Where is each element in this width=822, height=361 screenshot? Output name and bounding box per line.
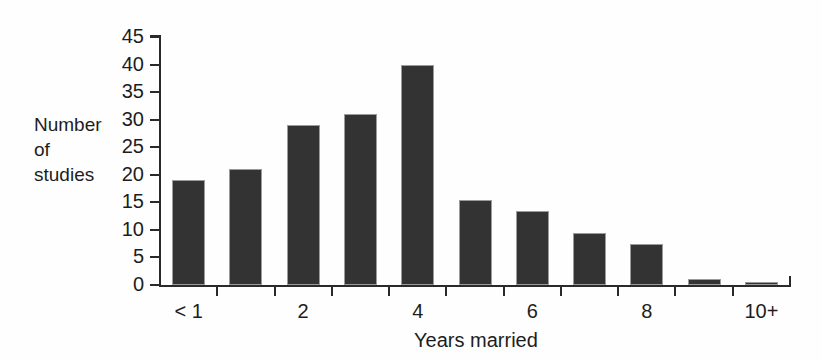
- bar: [516, 211, 549, 285]
- x-tick-label: 2: [263, 300, 343, 322]
- bar: [459, 200, 492, 285]
- x-tick: [617, 287, 619, 296]
- y-tick: [150, 36, 159, 38]
- y-tick-label: 40: [102, 54, 144, 74]
- bar: [229, 169, 262, 285]
- y-tick: [150, 91, 159, 93]
- x-tick: [732, 287, 734, 296]
- x-tick-label: 8: [607, 300, 687, 322]
- x-tick: [503, 287, 505, 296]
- x-tick: [216, 287, 218, 296]
- bar: [745, 282, 778, 285]
- y-tick: [150, 229, 159, 231]
- y-tick: [150, 174, 159, 176]
- y-tick: [150, 256, 159, 258]
- y-tick-label: 15: [102, 191, 144, 211]
- y-tick-label: 5: [102, 246, 144, 266]
- x-tick: [445, 287, 447, 296]
- y-tick: [150, 201, 159, 203]
- x-tick-label: 10+: [721, 300, 801, 322]
- y-tick-label: 25: [102, 136, 144, 156]
- x-axis-end-tick: [789, 276, 791, 287]
- y-tick-label: 0: [102, 274, 144, 294]
- bar-chart-figure: Number of studies 051015202530354045 < 1…: [0, 0, 822, 361]
- x-tick: [560, 287, 562, 296]
- y-tick: [150, 284, 159, 286]
- x-axis-title: Years married: [261, 329, 691, 351]
- y-tick-label: 45: [102, 26, 144, 46]
- bar: [344, 114, 377, 285]
- y-tick-label: 35: [102, 81, 144, 101]
- bar: [630, 244, 663, 285]
- y-tick-label: 10: [102, 219, 144, 239]
- y-tick-label: 30: [102, 109, 144, 129]
- y-axis-line: [159, 35, 161, 287]
- x-tick: [274, 287, 276, 296]
- y-tick: [150, 146, 159, 148]
- y-tick: [150, 64, 159, 66]
- x-tick-label: 4: [378, 300, 458, 322]
- x-tick: [674, 287, 676, 296]
- y-tick-label: 20: [102, 164, 144, 184]
- y-tick: [150, 119, 159, 121]
- x-tick: [388, 287, 390, 296]
- bar: [287, 125, 320, 285]
- bar: [688, 279, 721, 285]
- x-axis-line: [159, 285, 791, 287]
- x-tick-label: 6: [492, 300, 572, 322]
- x-tick-label: < 1: [149, 300, 229, 322]
- x-tick: [331, 287, 333, 296]
- bar: [172, 180, 205, 285]
- bar: [573, 233, 606, 285]
- bar: [401, 65, 434, 285]
